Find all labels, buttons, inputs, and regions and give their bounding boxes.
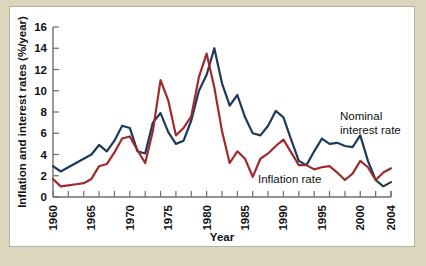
y-tick-label: 4	[41, 149, 48, 161]
x-tick-label: 1970	[124, 205, 136, 231]
x-tick-label: 1975	[162, 204, 174, 230]
x-tick-label: 1980	[201, 205, 213, 231]
svg-text:interest rate: interest rate	[340, 124, 401, 136]
y-tick-label: 10	[34, 85, 47, 97]
y-tick-label: 14	[34, 42, 47, 54]
y-axis-tick-labels: 0246810121416	[34, 21, 47, 203]
x-tick-label: 1995	[316, 204, 328, 230]
y-tick-label: 16	[34, 21, 47, 33]
x-tick-label: 2004	[385, 204, 397, 230]
x-axis-ticks	[53, 191, 391, 197]
y-tick-label: 6	[41, 127, 47, 139]
x-tick-label: 1965	[85, 204, 97, 230]
x-axis-title: Year	[210, 231, 235, 243]
chart-figure-panel: 0246810121416 19601965197019751980198519…	[9, 6, 415, 247]
x-axis-tick-labels: 1960196519701975198019851990199520002004	[47, 204, 397, 230]
annotation-nominal-interest-rate: Nominal interest rate	[340, 110, 401, 136]
svg-text:Inflation rate: Inflation rate	[258, 173, 321, 185]
svg-text:Nominal: Nominal	[340, 110, 382, 122]
y-tick-label: 0	[41, 191, 47, 203]
y-axis-title: Inflation and interest rates (%/year)	[16, 16, 28, 208]
y-tick-label: 12	[34, 64, 47, 76]
x-tick-label: 2000	[354, 205, 366, 231]
y-tick-label: 8	[41, 106, 48, 118]
x-tick-label: 1990	[277, 205, 289, 231]
y-tick-label: 2	[41, 170, 47, 182]
line-chart: 0246810121416 19601965197019751980198519…	[10, 7, 414, 246]
y-axis-ticks	[53, 27, 59, 197]
annotation-inflation-rate: Inflation rate	[258, 173, 321, 185]
x-tick-label: 1985	[239, 204, 251, 230]
x-tick-label: 1960	[47, 205, 59, 231]
